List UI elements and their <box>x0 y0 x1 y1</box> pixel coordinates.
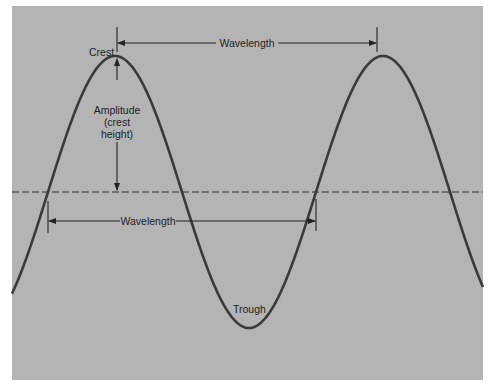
crest-label: Crest <box>89 46 114 58</box>
wavelength-top-label: Wavelength <box>219 37 274 49</box>
diagram-panel <box>12 6 483 380</box>
wavelength-bottom-label: Wavelength <box>120 215 175 227</box>
amplitude-label-line1: Amplitude <box>94 104 141 116</box>
amplitude-label-line3: height) <box>101 128 133 140</box>
wave-diagram: Wavelength Crest Amplitude (crest height… <box>0 0 494 388</box>
trough-label: Trough <box>233 303 266 315</box>
amplitude-label-line2: (crest <box>104 116 130 128</box>
